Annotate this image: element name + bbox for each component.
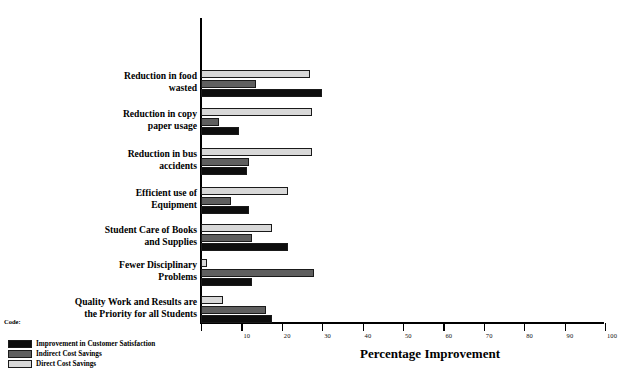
bar-group [201, 148, 605, 177]
bar [201, 118, 219, 126]
category-label-line: Student Care of Books [17, 224, 197, 236]
category-label-line: Efficient use of [17, 187, 197, 199]
x-tick-label-90: 90 [567, 332, 574, 339]
x-tick-label-100: 100 [607, 332, 617, 339]
category-label-line: the Priority for all Students [17, 308, 197, 320]
x-tick-label-10: 10 [243, 332, 250, 339]
category-label-line: Reduction in copy [17, 108, 197, 120]
category-label: Reduction in foodwasted [17, 70, 197, 93]
bar [201, 70, 310, 78]
bar [201, 148, 312, 156]
bar [201, 234, 252, 242]
bar [201, 108, 312, 116]
legend-label: Indirect Cost Savings [36, 350, 102, 358]
bar [201, 158, 249, 166]
legend-swatch [8, 360, 32, 368]
bar [201, 306, 266, 314]
bar-group [201, 259, 605, 288]
bar-group [201, 224, 605, 253]
legend-label: Direct Cost Savings [36, 360, 96, 368]
bar-group [201, 108, 605, 137]
category-label-line: wasted [17, 82, 197, 94]
category-label-line: Problems [17, 271, 197, 283]
category-label-line: Reduction in bus [17, 148, 197, 160]
legend-label: Improvement in Customer Satisfaction [36, 340, 155, 348]
bar-group [201, 70, 605, 99]
bar-chart: 102030405060708090100 Reduction in foodw… [0, 0, 641, 379]
x-tick-label-30: 30 [324, 332, 331, 339]
category-label-line: Equipment [17, 199, 197, 211]
x-tick-label-80: 80 [526, 332, 533, 339]
bar [201, 224, 272, 232]
bar [201, 80, 256, 88]
bar-group [201, 187, 605, 216]
x-tick-label-40: 40 [365, 332, 372, 339]
x-tick-label-60: 60 [445, 332, 452, 339]
category-label-line: Fewer Disciplinary [17, 259, 197, 271]
category-label: Reduction in copypaper usage [17, 108, 197, 131]
bar [201, 296, 223, 304]
bar [201, 243, 288, 251]
bar [201, 315, 272, 323]
category-label-line: accidents [17, 160, 197, 172]
bar [201, 197, 231, 205]
bar [201, 127, 239, 135]
x-tick-label-50: 50 [405, 332, 412, 339]
category-label: Student Care of Booksand Supplies [17, 224, 197, 247]
x-axis-title: Percentage Improvement [300, 346, 560, 362]
category-label: Reduction in busaccidents [17, 148, 197, 171]
category-label-line: Quality Work and Results are [17, 296, 197, 308]
bar [201, 269, 314, 277]
bar [201, 206, 249, 214]
bar [201, 259, 207, 267]
bar [201, 187, 288, 195]
x-tick-label-20: 20 [284, 332, 291, 339]
legend-swatch [8, 350, 32, 358]
x-tick-label-70: 70 [486, 332, 493, 339]
legend-caption: Code: [4, 318, 21, 325]
category-label-line: and Supplies [17, 236, 197, 248]
bar-group [201, 296, 605, 325]
category-label: Quality Work and Results arethe Priority… [17, 296, 197, 319]
bar [201, 167, 247, 175]
category-label-line: Reduction in food [17, 70, 197, 82]
x-tick-100 [605, 323, 606, 331]
legend-swatch [8, 340, 32, 348]
category-label: Fewer DisciplinaryProblems [17, 259, 197, 282]
category-label: Efficient use ofEquipment [17, 187, 197, 210]
category-label-line: paper usage [17, 120, 197, 132]
bar [201, 278, 252, 286]
bar [201, 89, 322, 97]
